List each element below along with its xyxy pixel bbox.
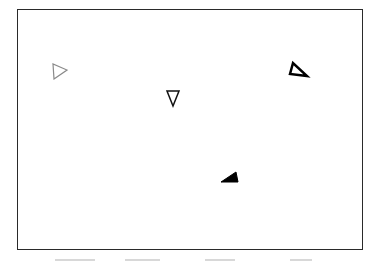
filled-black-triangle-icon: [221, 172, 238, 182]
downward-outline-triangle-icon: [167, 91, 179, 106]
cropped-caption: [0, 256, 375, 264]
bold-outline-triangle-icon: [290, 63, 307, 76]
gray-outline-triangle-icon: [53, 64, 67, 79]
shapes-canvas: [0, 0, 375, 264]
